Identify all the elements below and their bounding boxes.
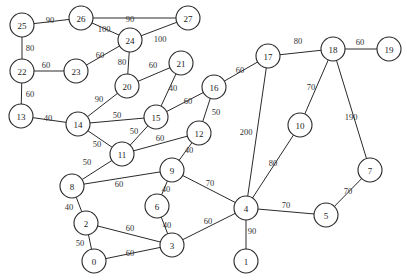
node-label: 16	[210, 83, 220, 93]
node-label: 5	[324, 211, 329, 221]
graph-node-19: 19	[377, 37, 401, 61]
graph-node-7: 7	[358, 158, 382, 182]
graph-node-15: 15	[144, 105, 168, 129]
edge-weight-label: 90	[95, 94, 104, 104]
node-label: 0	[92, 257, 97, 267]
node-label: 24	[126, 36, 136, 46]
edge-weight-label: 40	[163, 220, 172, 230]
node-label: 11	[118, 150, 127, 160]
edge-weight-label: 70	[344, 186, 353, 196]
edge-weight-label: 60	[115, 179, 124, 189]
edge-weight-label: 50	[76, 238, 85, 248]
node-label: 15	[152, 113, 162, 123]
graph-node-24: 24	[118, 28, 142, 52]
edge-weight-label: 90	[248, 226, 257, 236]
edge-weight-label: 60	[156, 133, 165, 143]
graph-node-0: 0	[82, 249, 106, 273]
edge-18-7	[333, 49, 370, 170]
edge-weight-label: 90	[46, 15, 55, 25]
graph-node-26: 26	[69, 6, 93, 30]
edge-weight-label: 50	[83, 157, 92, 167]
edge-weight-label: 60	[149, 60, 158, 70]
node-label: 3	[170, 241, 175, 251]
graph-node-5: 5	[314, 203, 338, 227]
edge-weight-label: 40	[44, 113, 53, 123]
edge-weight-label: 40	[185, 145, 194, 155]
node-label: 8	[70, 182, 75, 192]
node-label: 4	[244, 204, 249, 214]
node-label: 10	[296, 121, 306, 131]
edge-weight-label: 80	[26, 43, 35, 53]
edge-weight-label: 60	[184, 96, 193, 106]
nodes-layer: 0123456789101112131415161718192021222324…	[9, 6, 401, 273]
graph-diagram: 9090100100806060806060409050406050505060…	[0, 0, 407, 280]
edge-weight-label: 100	[154, 34, 167, 44]
node-label: 17	[264, 52, 274, 62]
edge-weight-label: 70	[307, 82, 316, 92]
node-label: 23	[72, 67, 82, 77]
edge-weight-label: 60	[42, 60, 51, 70]
edge-weight-label: 50	[93, 139, 102, 149]
edge-weight-label: 50	[130, 126, 139, 136]
node-label: 19	[385, 45, 395, 55]
graph-node-12: 12	[187, 121, 211, 145]
edge-weight-label: 60	[126, 223, 135, 233]
graph-node-9: 9	[160, 158, 184, 182]
edge-weight-label: 190	[345, 112, 358, 122]
node-label: 6	[155, 202, 160, 212]
graph-node-21: 21	[169, 51, 193, 75]
edge-weight-label: 50	[212, 107, 221, 117]
edge-weight-label: 70	[282, 200, 291, 210]
graph-node-2: 2	[74, 211, 98, 235]
node-label: 9	[170, 166, 175, 176]
edge-weight-label: 90	[126, 14, 135, 24]
graph-node-3: 3	[160, 233, 184, 257]
edge-weight-label: 70	[206, 178, 215, 188]
node-label: 22	[18, 67, 27, 77]
edge-weight-label: 60	[126, 248, 135, 258]
graph-node-22: 22	[10, 59, 34, 83]
node-label: 26	[77, 14, 87, 24]
edge-weight-label: 40	[162, 184, 171, 194]
graph-node-27: 27	[176, 6, 200, 30]
graph-node-11: 11	[110, 142, 134, 166]
graph-node-4: 4	[234, 196, 258, 220]
edge-weight-label: 60	[96, 50, 105, 60]
edge-weight-label: 100	[98, 24, 111, 34]
node-label: 14	[74, 120, 84, 130]
node-label: 21	[177, 59, 186, 69]
edge-weight-label: 80	[294, 36, 303, 46]
edge-weight-label: 50	[113, 110, 122, 120]
node-label: 20	[123, 82, 133, 92]
node-label: 2	[84, 219, 89, 229]
graph-node-23: 23	[64, 59, 88, 83]
node-label: 12	[195, 129, 204, 139]
edge-weight-label: 60	[236, 65, 245, 75]
edge-weight-label: 80	[269, 158, 278, 168]
edge-weight-label: 60	[356, 37, 365, 47]
edge-weight-label: 200	[240, 127, 253, 137]
edge-weight-label: 80	[118, 57, 127, 67]
graph-node-18: 18	[321, 37, 345, 61]
graph-node-25: 25	[10, 13, 34, 37]
node-label: 1	[244, 257, 249, 267]
graph-node-17: 17	[256, 44, 280, 68]
graph-node-13: 13	[9, 104, 33, 128]
node-label: 18	[329, 45, 339, 55]
edge-weight-label: 40	[169, 83, 178, 93]
graph-node-14: 14	[66, 112, 90, 136]
graph-node-8: 8	[60, 174, 84, 198]
node-label: 13	[17, 112, 27, 122]
node-label: 25	[18, 21, 28, 31]
graph-node-16: 16	[202, 75, 226, 99]
graph-node-20: 20	[115, 74, 139, 98]
edge-weight-label: 60	[26, 89, 35, 99]
node-label: 27	[184, 14, 194, 24]
edge-weight-label: 60	[204, 216, 213, 226]
edge-weight-label: 40	[65, 202, 74, 212]
graph-node-6: 6	[145, 194, 169, 218]
graph-node-10: 10	[288, 113, 312, 137]
node-label: 7	[368, 166, 373, 176]
graph-node-1: 1	[234, 249, 258, 273]
